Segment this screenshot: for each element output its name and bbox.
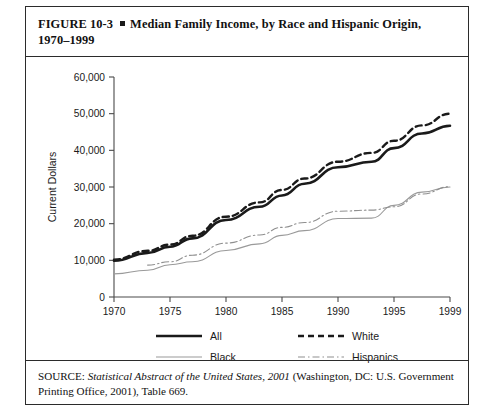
x-tick-label: 1980: [215, 306, 238, 317]
y-tick-label: 20,000: [74, 218, 105, 229]
square-bullet-icon: [120, 21, 125, 26]
page-title: FIGURE 10-3Median Family Income, by Race…: [38, 16, 456, 48]
x-tick-label: 1990: [327, 306, 350, 317]
x-tick-label: 1970: [103, 306, 126, 317]
source-label: SOURCE:: [38, 370, 85, 382]
series-line-white: [114, 114, 450, 260]
y-axis-title: Current Dollars: [46, 152, 58, 223]
y-tick-label: 30,000: [74, 182, 105, 193]
legend-label-all: All: [210, 330, 222, 342]
y-tick-label: 40,000: [74, 145, 105, 156]
y-tick-label: 60,000: [74, 72, 105, 83]
figure-number: FIGURE 10-3: [38, 17, 113, 31]
x-axis-ticks: [114, 297, 450, 302]
legend-label-white: White: [352, 330, 379, 342]
x-axis-tick-labels: 1970197519801985199019951999: [103, 306, 462, 317]
y-tick-label: 0: [99, 292, 105, 303]
source-note: SOURCE: Statistical Abstract of the Unit…: [26, 360, 468, 404]
x-tick-label: 1995: [383, 306, 406, 317]
figure-title-line2: 1970–1999: [38, 33, 95, 47]
y-axis-tick-labels: 010,00020,00030,00040,00050,00060,000: [74, 72, 106, 303]
figure-title-block: FIGURE 10-3Median Family Income, by Race…: [26, 7, 468, 57]
source-title-italic: Statistical Abstract of the United State…: [88, 370, 290, 382]
series-line-hispanics: [148, 187, 450, 265]
line-chart: 010,00020,00030,00040,00050,00060,000 19…: [26, 57, 468, 375]
x-tick-label: 1985: [271, 306, 294, 317]
series-line-all: [114, 126, 450, 261]
figure-title-line1: Median Family Income, by Race and Hispan…: [130, 17, 421, 31]
chart-legend: AllWhiteBlackHispanics: [156, 330, 398, 363]
y-tick-label: 10,000: [74, 255, 105, 266]
x-tick-label: 1999: [439, 306, 462, 317]
y-tick-label: 50,000: [74, 108, 105, 119]
series-line-black: [114, 187, 450, 274]
y-axis-ticks: [109, 77, 114, 297]
figure-card: FIGURE 10-3Median Family Income, by Race…: [25, 6, 469, 405]
x-tick-label: 1975: [159, 306, 182, 317]
chart-series-group: [114, 114, 450, 274]
chart-plot-region: 010,00020,00030,00040,00050,00060,000 19…: [26, 57, 468, 375]
